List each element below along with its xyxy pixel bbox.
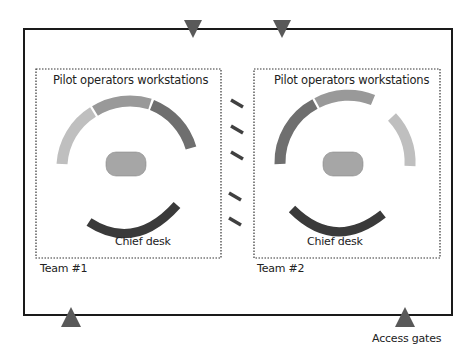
team-1-table [106, 152, 146, 176]
team-2-label: Team #2 [257, 262, 304, 275]
workstation-segment [62, 112, 93, 164]
room-boundary [24, 29, 452, 315]
team-1-chief-desk-label: Chief desk [115, 235, 171, 248]
team-2-chief-desk-label: Chief desk [307, 235, 363, 248]
access-gates-label: Access gates [372, 332, 441, 345]
workstation-segment [392, 117, 410, 166]
gate-bottom-left-icon [61, 307, 81, 327]
divider-dash [231, 152, 243, 159]
divider-dash [229, 193, 241, 200]
divider-dash [231, 126, 243, 133]
team-2-workstations-label: Pilot operators workstations [274, 73, 429, 87]
workstation-segment [95, 101, 150, 111]
divider-dash [231, 100, 243, 107]
team-2-table [323, 152, 363, 176]
gate-bottom-right-icon [395, 307, 415, 327]
team-1-label: Team #1 [40, 262, 87, 275]
divider-dash [229, 218, 241, 225]
workstation-segment [152, 105, 191, 148]
workstation-segment [280, 104, 315, 164]
team-2-chief-desk [292, 209, 383, 232]
workstation-segment [317, 95, 373, 103]
team-divider [229, 100, 243, 225]
team-1-workstations-label: Pilot operators workstations [53, 73, 208, 87]
team-1-chief-desk [89, 205, 177, 234]
control-room-diagram [0, 0, 472, 359]
